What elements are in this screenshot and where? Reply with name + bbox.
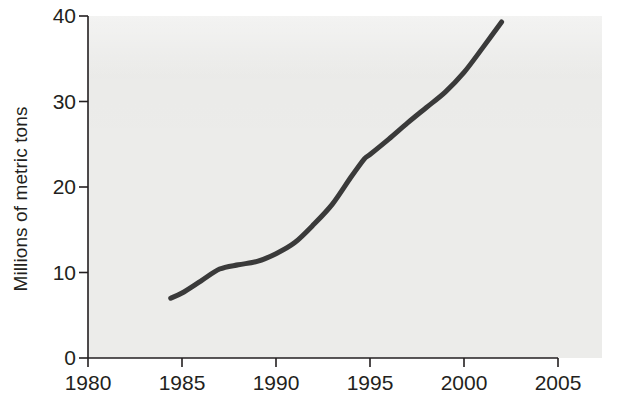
y-axis-ticks: [79, 16, 88, 358]
x-axis-tick-label: 2005: [518, 371, 598, 395]
x-axis-tick-label: 2000: [424, 371, 504, 395]
y-axis-tick-label: 40: [30, 4, 76, 28]
chart-canvas: [0, 0, 630, 398]
axes-group: [88, 16, 558, 358]
x-axis-tick-label: 1980: [48, 371, 128, 395]
data-line-series-0: [171, 22, 502, 298]
x-axis-tick-label: 1985: [142, 371, 222, 395]
y-axis-tick-label: 20: [30, 175, 76, 199]
y-axis-tick-label: 30: [30, 90, 76, 114]
x-axis-tick-label: 1995: [330, 371, 410, 395]
x-axis-ticks: [88, 358, 558, 367]
data-series-group: [171, 22, 502, 298]
y-axis-title: Millions of metric tons: [0, 0, 42, 398]
chart-container: Millions of metric tons 010203040 198019…: [0, 0, 630, 398]
x-axis-tick-label: 1990: [236, 371, 316, 395]
y-axis-tick-label: 10: [30, 261, 76, 285]
y-axis-tick-label: 0: [30, 346, 76, 370]
